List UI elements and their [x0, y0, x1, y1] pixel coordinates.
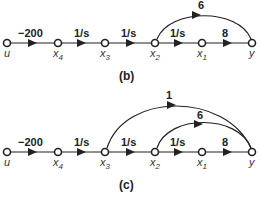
label-y: y: [248, 156, 256, 168]
arrow-icon: [77, 39, 86, 47]
label-x2: x2: [149, 47, 161, 62]
node-x1: [199, 40, 206, 47]
gain-x3-x2: 1/s: [121, 27, 136, 39]
node-x2: [152, 149, 159, 156]
arrow-icon: [192, 11, 201, 19]
signal-flow-graphs: −200 1/s 1/s 1/s 8 6 u x4 x3 x2 x1 y (b): [0, 0, 260, 198]
gain-x1-y: 8: [222, 27, 228, 39]
node-y: [249, 149, 256, 156]
node-x2: [152, 40, 159, 47]
gain-x1-y: 8: [222, 136, 228, 148]
arrow-icon: [223, 39, 232, 47]
caption-b: (b): [119, 69, 134, 83]
arrow-icon: [167, 101, 176, 109]
gain-x2-x1: 1/s: [170, 136, 185, 148]
node-x3: [102, 149, 109, 156]
node-x1: [199, 149, 206, 156]
label-x3: x3: [99, 156, 111, 171]
label-x4: x4: [52, 47, 64, 62]
label-u: u: [4, 156, 10, 168]
gain-x2-y: 6: [198, 0, 204, 11]
arrow-icon: [28, 148, 37, 156]
label-x4: x4: [52, 156, 64, 171]
diagram-b: −200 1/s 1/s 1/s 8 6 u x4 x3 x2 x1 y (b): [4, 0, 257, 83]
arrow-icon: [77, 148, 86, 156]
label-x1: x1: [196, 156, 207, 171]
gain-x2-y: 6: [197, 109, 203, 121]
label-x1: x1: [196, 47, 207, 62]
label-u: u: [4, 47, 10, 59]
node-u: [4, 149, 11, 156]
label-y: y: [248, 47, 256, 59]
gain-x3-x2: 1/s: [121, 136, 136, 148]
arrow-icon: [223, 148, 232, 156]
diagram-c: −200 1/s 1/s 1/s 8 6 1 u x4 x3 x2 x1 y (…: [4, 89, 257, 192]
arrow-icon: [174, 39, 183, 47]
arrow-icon: [194, 120, 203, 128]
arrow-icon: [28, 39, 37, 47]
gain-x3-y: 1: [166, 89, 172, 101]
node-x3: [102, 40, 109, 47]
label-x2: x2: [149, 156, 161, 171]
node-u: [4, 40, 11, 47]
arrow-icon: [126, 148, 135, 156]
node-x4: [55, 149, 62, 156]
arrow-icon: [126, 39, 135, 47]
arrow-icon: [174, 148, 183, 156]
gain-x4-x3: 1/s: [74, 136, 89, 148]
caption-c: (c): [119, 178, 134, 192]
gain-u-x4: −200: [18, 27, 43, 39]
gain-u-x4: −200: [18, 136, 43, 148]
node-y: [249, 40, 256, 47]
node-x4: [55, 40, 62, 47]
label-x3: x3: [99, 47, 111, 62]
gain-x2-x1: 1/s: [170, 27, 185, 39]
gain-x4-x3: 1/s: [74, 27, 89, 39]
